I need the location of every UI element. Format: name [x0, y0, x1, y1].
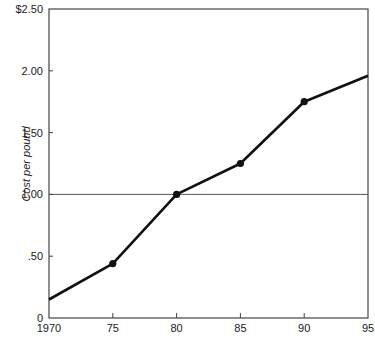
- x-tick-label: 1970: [37, 322, 61, 334]
- data-series-line: [49, 76, 368, 300]
- x-tick-label: 95: [362, 322, 374, 334]
- data-point-marker: [109, 260, 116, 267]
- x-tick-label: 90: [298, 322, 310, 334]
- x-tick-label: 75: [107, 322, 119, 334]
- x-tick-label: 80: [170, 322, 182, 334]
- x-axis-ticks: 19707580859095: [37, 313, 374, 334]
- y-tick-label: .50: [28, 250, 43, 262]
- x-tick-label: 85: [234, 322, 246, 334]
- data-point-marker: [173, 191, 180, 198]
- y-tick-label: 2.00: [22, 65, 43, 77]
- data-point-marker: [237, 160, 244, 167]
- data-point-markers: [109, 98, 308, 267]
- line-chart: 0.501.001.502.00$2.50 19707580859095 Cos…: [0, 0, 375, 338]
- y-tick-label: $2.50: [15, 3, 43, 15]
- data-point-marker: [301, 98, 308, 105]
- y-axis-label: Cost per pound: [20, 126, 32, 202]
